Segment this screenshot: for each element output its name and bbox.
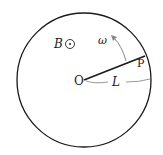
field-out-of-page-icon [66,40,75,49]
length-indicator [86,81,108,83]
field-label: B [53,37,63,51]
length-indicator-right [126,79,150,82]
omega-arrow [114,38,126,61]
origin-label: O [74,74,84,88]
length-label: L [111,75,120,89]
omega-label: ω [98,34,107,47]
rotating-rod-diagram: B ω P O L [0,0,163,155]
point-label: P [137,57,145,70]
